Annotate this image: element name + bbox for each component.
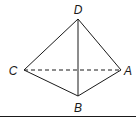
tetrahedron-diagram: D C A B <box>0 0 136 120</box>
vertex-label-B: B <box>74 101 82 115</box>
vertex-label-C: C <box>9 64 18 78</box>
edge-C-B <box>24 70 78 96</box>
edge-B-A <box>78 70 121 96</box>
edge-D-C <box>24 19 78 70</box>
vertex-label-A: A <box>123 64 132 78</box>
edge-D-A <box>78 19 121 70</box>
vertex-label-D: D <box>74 3 83 17</box>
